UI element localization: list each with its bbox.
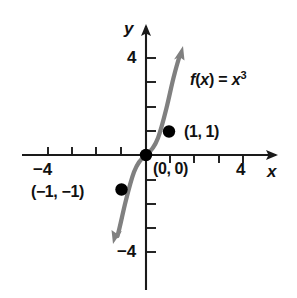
- cubic-curve: [118, 58, 180, 236]
- point-marker-1-1: [163, 125, 175, 137]
- point-label-0-0: (0, 0): [153, 161, 188, 177]
- point-marker-neg1-neg1: [115, 183, 127, 195]
- point-label-neg1-neg1: (−1, −1): [31, 184, 84, 200]
- function-equals: =: [214, 71, 232, 88]
- function-label: f(x) = x3: [190, 70, 246, 88]
- y-tick-label-4: 4: [127, 49, 136, 66]
- y-axis-label: y: [124, 20, 133, 37]
- point-label-1-1: (1, 1): [184, 124, 219, 140]
- x-axis-label: x: [267, 163, 276, 180]
- y-tick-label-neg4: −4: [117, 243, 136, 260]
- function-variable: x: [200, 71, 209, 88]
- x-tick-label-4: 4: [236, 161, 245, 178]
- x-tick-label-neg4: −4: [33, 161, 52, 178]
- point-marker-0-0: [140, 149, 152, 161]
- coordinate-plane-svg: [0, 0, 297, 298]
- function-exponent: 3: [240, 69, 246, 81]
- graph-figure: y x 4 −4 −4 4 (1, 1) (0, 0) (−1, −1) f(x…: [0, 0, 297, 298]
